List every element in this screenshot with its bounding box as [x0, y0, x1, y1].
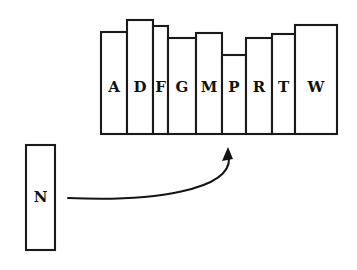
- bar-d[interactable]: D: [127, 20, 153, 134]
- bar-rect-d[interactable]: [127, 20, 153, 134]
- bar-m[interactable]: M: [196, 33, 222, 134]
- bar-label-d: D: [133, 78, 146, 96]
- bar-label-p: P: [228, 78, 239, 96]
- bar-label-r: R: [253, 78, 266, 96]
- source-item-label: N: [34, 188, 48, 206]
- figure-canvas: ADFGMPRTW N: [0, 0, 357, 270]
- insertion-arrow: [68, 147, 233, 199]
- insertion-arrow-head: [222, 147, 233, 161]
- bar-label-a: A: [107, 78, 120, 96]
- bar-a[interactable]: A: [101, 32, 127, 134]
- bar-p[interactable]: P: [222, 55, 246, 134]
- figure-svg: ADFGMPRTW N: [0, 0, 357, 270]
- bar-label-m: M: [201, 78, 218, 96]
- bar-r[interactable]: R: [246, 38, 272, 134]
- source-item-group[interactable]: N: [26, 145, 55, 250]
- bar-group: ADFGMPRTW: [101, 20, 337, 134]
- bar-g[interactable]: G: [168, 38, 196, 134]
- bar-t[interactable]: T: [272, 34, 295, 134]
- bar-label-f: F: [155, 78, 166, 96]
- bar-f[interactable]: F: [153, 26, 168, 134]
- bar-label-g: G: [176, 78, 189, 96]
- insertion-arrow-curve: [68, 158, 229, 199]
- bar-label-t: T: [278, 78, 290, 96]
- bar-label-w: W: [307, 78, 326, 96]
- bar-w[interactable]: W: [295, 25, 337, 134]
